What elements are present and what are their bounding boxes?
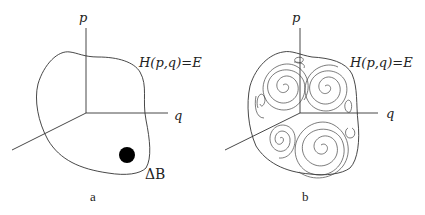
filament-right (345, 100, 355, 138)
phase-space-diagram: p q H(p,q)=E ΔB a (0, 0, 425, 215)
q-axis-label: q (174, 108, 182, 123)
spiral-top-left (263, 64, 308, 110)
panel-a: p q H(p,q)=E ΔB a (12, 10, 202, 204)
spiral-top-right (305, 65, 347, 111)
panel-b: p q H(p,q)=E b (225, 10, 413, 204)
region-delta-b-dot (119, 147, 135, 163)
surface-label: H(p,q)=E (349, 55, 413, 70)
spiral-bottom-left (270, 125, 295, 158)
p-axis-label: p (79, 10, 88, 25)
q-axis-label: q (386, 106, 394, 121)
panel-caption-a: a (90, 189, 96, 204)
panel-caption-b: b (302, 189, 309, 204)
spiral-bottom-right (295, 122, 348, 178)
diagonal-axis (12, 113, 86, 150)
filament-left (255, 94, 265, 118)
p-axis-label: p (292, 10, 301, 25)
region-label: ΔB (145, 166, 165, 182)
surface-label: H(p,q)=E (138, 55, 202, 70)
filament-top (294, 57, 304, 68)
diagonal-axis (225, 113, 300, 150)
